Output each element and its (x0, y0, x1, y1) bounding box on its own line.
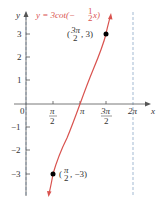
y-tick-m3: −3 (11, 169, 21, 179)
pt2-rest: , −3) (70, 169, 87, 179)
y-tick-2: 2 (17, 52, 22, 62)
x-tick-2pi: 2π (128, 106, 138, 116)
pt1-den: 2 (73, 33, 78, 43)
point-3pi-half-3 (104, 32, 109, 37)
pt1-rest: , 3) (81, 29, 93, 39)
point-pi-half-m3 (51, 172, 56, 177)
x-tick-0: 0 (20, 106, 25, 116)
x-axis-label: x (150, 106, 155, 116)
y-tick-3: 3 (17, 29, 22, 39)
pt1-paren: ( (67, 29, 70, 39)
equation-frac-den: 2 (88, 13, 93, 23)
curve-arrow-down-icon (47, 191, 52, 197)
x-ticks (53, 101, 106, 104)
x-tick-pi-half-num: π (50, 106, 55, 116)
equation-suffix: x) (92, 10, 100, 20)
y-axis-arrow-icon (24, 11, 29, 17)
y-tick-m1: −1 (11, 122, 21, 132)
y-tick-1: 1 (17, 75, 22, 85)
y-tick-m2: −2 (11, 145, 21, 155)
y-axis-label: y (15, 10, 20, 20)
cotangent-graph: y x 0 π 2 π 3π 2 2π 3 2 1 −1 −2 −3 y = 3… (0, 0, 161, 210)
x-tick-3pi-half-num: 3π (100, 106, 111, 116)
pt2-paren: ( (59, 169, 62, 179)
x-tick-pi: π (80, 106, 85, 116)
curve-arrow-up-icon (108, 13, 113, 20)
equation-label: y = 3cot(− (35, 10, 75, 20)
x-tick-3pi-half-den: 2 (104, 116, 109, 126)
pt2-den: 2 (64, 173, 69, 183)
x-tick-pi-half-den: 2 (50, 116, 55, 126)
